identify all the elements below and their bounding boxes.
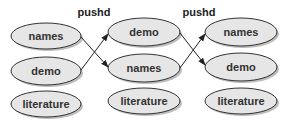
- stack-3-item-names: names: [205, 18, 279, 48]
- stack-3-item-literature: literature: [205, 88, 279, 116]
- stack-1-item-names: names: [11, 23, 83, 51]
- stack-3-item-demo: demo: [205, 53, 279, 83]
- stack-1-label-demo: demo: [31, 65, 61, 77]
- pushd-label-2: pushd: [183, 6, 216, 18]
- stack-2-label-names: names: [127, 62, 162, 74]
- stack-3-label-names: names: [224, 26, 259, 38]
- stack-1-item-literature: literature: [11, 91, 83, 119]
- pushd-label-1: pushd: [78, 6, 111, 18]
- arrow-demo-down-2: [180, 33, 205, 65]
- arrow-demo-up-1: [81, 34, 108, 70]
- directory-stack-diagram: pushd pushd names demo literature demo: [0, 0, 287, 129]
- stack-3-label-demo: demo: [226, 61, 256, 73]
- stack-2-item-demo: demo: [108, 18, 182, 48]
- stack-2: demo names literature: [108, 18, 182, 116]
- stack-1-label-literature: literature: [22, 98, 69, 110]
- stack-1: names demo literature: [11, 23, 83, 119]
- stack-1-label-names: names: [29, 30, 64, 42]
- stack-2-item-literature: literature: [108, 88, 182, 116]
- stack-1-item-demo: demo: [11, 57, 83, 87]
- stack-3: names demo literature: [205, 18, 279, 116]
- stack-2-item-names: names: [108, 54, 182, 84]
- arrow-names-up-2: [180, 34, 205, 68]
- stack-2-label-demo: demo: [129, 26, 159, 38]
- stack-2-label-literature: literature: [120, 95, 167, 107]
- stack-3-label-literature: literature: [217, 95, 264, 107]
